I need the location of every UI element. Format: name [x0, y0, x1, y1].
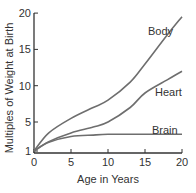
x-tick-label: 20 [176, 156, 188, 168]
series-label-brain: Brain [152, 124, 178, 136]
y-tick-label: 5 [25, 116, 31, 128]
series-label-body: Body [148, 25, 174, 37]
chart-svg: 1510152005101520Age in YearsMultiples of… [0, 0, 196, 193]
x-tick-label: 5 [68, 156, 74, 168]
x-tick-label: 15 [139, 156, 151, 168]
y-tick-label: 15 [19, 43, 31, 55]
growth-chart: 1510152005101520Age in YearsMultiples of… [0, 0, 196, 193]
series-line-brain [34, 134, 182, 151]
series-label-heart: Heart [155, 86, 182, 98]
x-tick-label: 10 [102, 156, 114, 168]
y-axis-title: Multiples of Weight at Birth [3, 23, 15, 154]
x-axis-title: Age in Years [77, 173, 139, 185]
y-tick-label: 10 [19, 80, 31, 92]
x-tick-label: 0 [31, 156, 37, 168]
y-tick-label: 20 [19, 7, 31, 19]
